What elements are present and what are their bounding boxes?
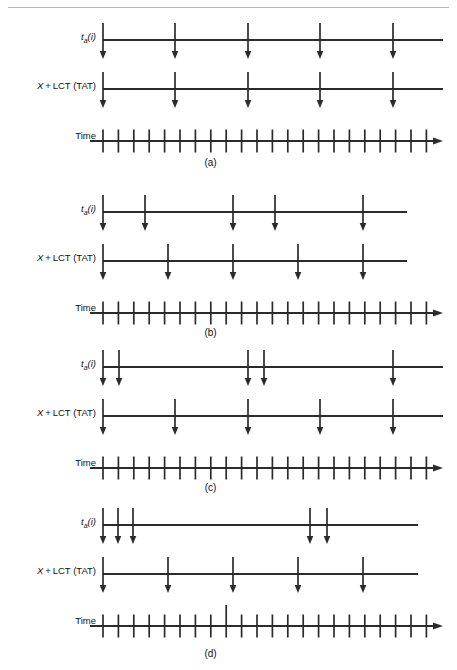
panel-caption-a: (a) <box>0 157 457 168</box>
event-arrow <box>100 72 107 108</box>
event-arrow <box>130 508 137 544</box>
panel-d-row-tat: X + LCT (TAT) <box>0 552 457 598</box>
event-arrow <box>100 195 107 231</box>
event-arrow <box>245 350 252 386</box>
page-header-rule <box>8 7 449 8</box>
event-arrow <box>100 23 107 59</box>
panel-caption-text: (a) <box>204 157 216 168</box>
panel-d-lane-time <box>0 602 457 648</box>
event-arrow <box>360 557 367 593</box>
event-arrow <box>390 23 397 59</box>
event-arrow <box>100 508 107 544</box>
event-arrow <box>390 399 397 435</box>
event-arrow <box>307 508 314 544</box>
event-arrow <box>100 350 107 386</box>
panel-caption-c: (c) <box>0 482 457 493</box>
panel-a-row-tat: X + LCT (TAT) <box>0 67 457 113</box>
event-arrow <box>142 195 149 231</box>
panel-c-lane-arrival <box>0 345 457 391</box>
event-arrow <box>116 350 123 386</box>
time-axis-arrowhead <box>433 138 443 145</box>
event-arrow <box>317 399 324 435</box>
event-arrow <box>100 244 107 280</box>
event-arrow <box>172 23 179 59</box>
event-arrow <box>390 350 397 386</box>
event-arrow <box>230 557 237 593</box>
event-arrow <box>172 72 179 108</box>
event-arrow <box>245 23 252 59</box>
event-arrow <box>230 195 237 231</box>
event-arrow <box>360 244 367 280</box>
event-arrow <box>261 350 268 386</box>
event-arrow <box>172 399 179 435</box>
event-arrow <box>115 508 122 544</box>
panel-caption-text: (b) <box>204 327 216 338</box>
panel-caption-d: (d) <box>0 648 457 659</box>
event-arrow <box>317 72 324 108</box>
panel-d-row-time: Time <box>0 602 457 648</box>
panel-c-row-tat: X + LCT (TAT) <box>0 394 457 440</box>
event-arrow <box>272 195 279 231</box>
panel-a-lane-tat <box>0 67 457 113</box>
panel-c-row-arrival: ta(i) <box>0 345 457 391</box>
time-axis-arrowhead <box>433 465 443 472</box>
panel-caption-text: (d) <box>204 648 216 659</box>
panel-b-lane-arrival <box>0 190 457 236</box>
event-arrow <box>390 72 397 108</box>
event-arrow <box>295 557 302 593</box>
panel-d-row-arrival: ta(i) <box>0 503 457 549</box>
event-arrow <box>230 244 237 280</box>
panel-caption-b: (b) <box>0 327 457 338</box>
panel-d-lane-arrival <box>0 503 457 549</box>
event-arrow <box>317 23 324 59</box>
event-arrow <box>165 557 172 593</box>
panel-caption-text: (c) <box>205 482 217 493</box>
event-arrow <box>245 72 252 108</box>
panel-b-row-arrival: ta(i) <box>0 190 457 236</box>
panel-a-lane-arrival <box>0 18 457 64</box>
event-arrow <box>100 557 107 593</box>
time-axis-arrowhead <box>433 623 443 630</box>
event-arrow <box>295 244 302 280</box>
panel-a-row-arrival: ta(i) <box>0 18 457 64</box>
panel-b-row-tat: X + LCT (TAT) <box>0 239 457 285</box>
event-arrow <box>245 399 252 435</box>
event-arrow <box>324 508 331 544</box>
panel-c-lane-tat <box>0 394 457 440</box>
figure-container: ta(i)X + LCT (TAT)Timeta(i)X + LCT (TAT)… <box>0 0 457 670</box>
panel-d-lane-tat <box>0 552 457 598</box>
panel-b-lane-tat <box>0 239 457 285</box>
event-arrow <box>165 244 172 280</box>
event-arrow <box>100 399 107 435</box>
event-arrow <box>360 195 367 231</box>
time-axis-arrowhead <box>433 310 443 317</box>
